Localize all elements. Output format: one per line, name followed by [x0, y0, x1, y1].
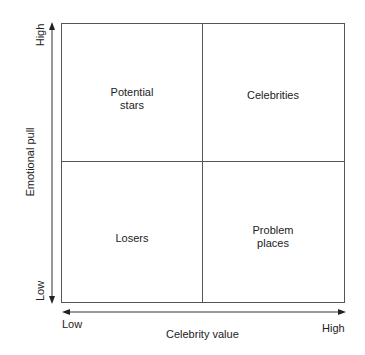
- y-arrow-down-icon: [49, 296, 55, 304]
- horizontal-divider: [61, 161, 345, 162]
- x-arrow-left-icon: [62, 309, 70, 315]
- x-arrow-right-icon: [338, 309, 346, 315]
- y-arrow-up-icon: [49, 22, 55, 30]
- y-axis-high-label: High: [34, 22, 48, 48]
- x-axis-low-label: Low: [62, 318, 82, 330]
- y-axis-title: Emotional pull: [24, 122, 38, 202]
- x-axis-title: Celebrity value: [166, 328, 239, 340]
- quadrant-top-right: Celebrities: [213, 89, 333, 102]
- quadrant-bottom-right-line1: Problem: [213, 224, 333, 237]
- x-axis-high-label: High: [322, 322, 345, 334]
- matrix-frame: [61, 23, 345, 303]
- quadrant-top-left-line2: stars: [72, 99, 192, 112]
- quadrant-bottom-right-line2: places: [213, 237, 333, 250]
- quadrant-bottom-left: Losers: [72, 232, 192, 245]
- vertical-divider: [202, 23, 203, 303]
- quadrant-top-left-line1: Potential: [72, 86, 192, 99]
- quadrant-top-left: Potential stars: [72, 86, 192, 112]
- y-axis-low-label: Low: [34, 278, 48, 304]
- quadrant-bottom-right: Problem places: [213, 224, 333, 250]
